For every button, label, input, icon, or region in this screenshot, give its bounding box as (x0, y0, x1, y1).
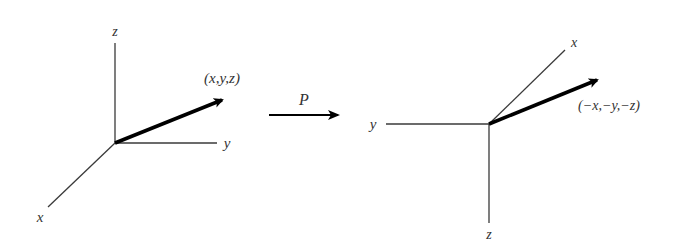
right-x-label: x (570, 35, 578, 50)
right-z-label: z (485, 227, 492, 242)
right-x-axis (489, 50, 565, 124)
left-x-axis (48, 143, 115, 207)
left-z-label: z (111, 24, 118, 39)
left-position-vector (115, 100, 222, 143)
operator-label: P (298, 91, 309, 108)
right-frame: x y z (−x,−y,−z) (368, 35, 641, 242)
left-x-label: x (36, 209, 44, 225)
right-y-label: y (368, 116, 377, 132)
left-y-label: y (222, 135, 231, 151)
left-vector-label: (x,y,z) (204, 70, 240, 87)
left-frame: z y x (x,y,z) (36, 24, 240, 225)
parity-operator: P (269, 91, 338, 115)
parity-diagram: z y x (x,y,z) P x y z (−x,−y,−z) (0, 0, 676, 245)
right-vector-label: (−x,−y,−z) (578, 98, 640, 114)
